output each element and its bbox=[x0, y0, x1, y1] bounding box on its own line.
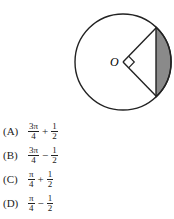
operator: + bbox=[42, 125, 48, 137]
radius-lower bbox=[123, 62, 156, 96]
fraction: π4 bbox=[28, 170, 35, 189]
fraction: 12 bbox=[51, 146, 58, 165]
answer-choices: (A) 3π4 + 12 (B) 3π4 − 12 (C) π4 + 12 (D… bbox=[3, 119, 113, 215]
fraction: 3π4 bbox=[28, 146, 39, 165]
fraction: 12 bbox=[51, 122, 58, 141]
choice-b[interactable]: (B) 3π4 − 12 bbox=[3, 143, 113, 167]
choice-letter: (B) bbox=[3, 149, 27, 161]
fraction: π4 bbox=[28, 194, 35, 213]
fraction: 12 bbox=[47, 194, 54, 213]
operator: − bbox=[42, 149, 48, 161]
choice-letter: (D) bbox=[3, 197, 27, 209]
circle-figure: O bbox=[0, 0, 174, 115]
choice-letter: (C) bbox=[3, 173, 27, 185]
choice-letter: (A) bbox=[3, 125, 27, 137]
operator: + bbox=[38, 173, 44, 185]
operator: − bbox=[38, 197, 44, 209]
choice-d[interactable]: (D) π4 − 12 bbox=[3, 191, 113, 215]
fraction: 12 bbox=[47, 170, 54, 189]
choice-a[interactable]: (A) 3π4 + 12 bbox=[3, 119, 113, 143]
fraction: 3π4 bbox=[28, 122, 39, 141]
center-label: O bbox=[110, 55, 119, 69]
right-angle-marker bbox=[129, 56, 135, 68]
radius-upper bbox=[123, 28, 156, 62]
choice-c[interactable]: (C) π4 + 12 bbox=[3, 167, 113, 191]
